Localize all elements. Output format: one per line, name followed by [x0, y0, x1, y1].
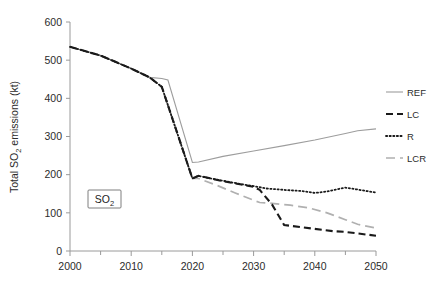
y-tick-label: 400 — [44, 92, 62, 104]
y-tick-label: 600 — [44, 16, 62, 28]
x-tick-label: 2010 — [120, 260, 144, 272]
annotation-so2: SO2 — [88, 190, 121, 208]
y-tick-label: 500 — [44, 54, 62, 66]
chart-figure: 0100200300400500600 20002010202020302040… — [0, 0, 445, 296]
x-tick-label: 2020 — [181, 260, 205, 272]
y-tick-label: 300 — [44, 130, 62, 142]
y-axis-title-post: emissions (kt) — [8, 81, 20, 149]
x-tick-label: 2040 — [303, 260, 327, 272]
legend-label-lc: LC — [407, 109, 419, 120]
y-axis-title-pre: Total SO — [8, 153, 20, 193]
svg-text:Total SO2 emissions (kt): Total SO2 emissions (kt) — [8, 81, 23, 193]
legend-label-lcr: LCR — [407, 153, 426, 164]
x-tick-label: 2000 — [58, 260, 82, 272]
legend-label-ref: REF — [407, 87, 426, 98]
y-tick-label: 0 — [56, 245, 62, 257]
x-tick-label: 2030 — [242, 260, 266, 272]
series-line-r — [70, 47, 376, 193]
legend-label-r: R — [407, 131, 414, 142]
y-tick-label: 200 — [44, 168, 62, 180]
x-minor-tick-group — [101, 251, 346, 255]
annotation-so2-pre: SO — [95, 193, 110, 205]
legend: REFLCRLCR — [386, 87, 426, 164]
y-axis-title: Total SO2 emissions (kt) — [8, 81, 23, 193]
annotation-so2-sub: 2 — [110, 199, 114, 208]
chart-svg: 0100200300400500600 20002010202020302040… — [0, 0, 445, 296]
x-tick-label: 2050 — [364, 260, 388, 272]
y-tick-group: 0100200300400500600 — [44, 16, 70, 257]
y-tick-label: 100 — [44, 207, 62, 219]
series-line-ref — [70, 47, 376, 163]
